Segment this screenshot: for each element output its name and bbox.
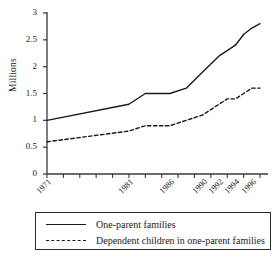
series-line-one-parent-families [47,24,260,121]
series-line-dependent-children [47,88,260,142]
chart-legend: One-parent families Dependent children i… [35,212,271,250]
legend-key-dashed-icon [44,235,88,245]
legend-item-one-parent-families: One-parent families [44,216,176,232]
legend-key-solid-icon [44,219,88,229]
legend-item-dependent-children: Dependent children in one-parent familie… [44,232,265,248]
data-series-lines [47,24,260,142]
legend-label: One-parent families [96,219,176,230]
chart-figure: Millions 00.511.522.53 19711981198619901… [0,0,277,257]
legend-label: Dependent children in one-parent familie… [96,235,265,246]
